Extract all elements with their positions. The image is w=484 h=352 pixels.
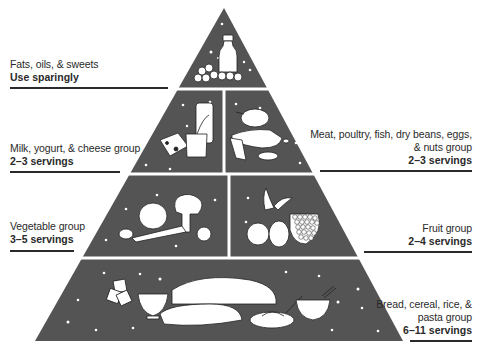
label-milk: Milk, yogurt, & cheese group 2–3 serving… xyxy=(10,142,140,168)
tier-servings: 2–4 servings xyxy=(408,235,472,248)
label-bread: Bread, cereal, rice, & pasta group 6–11 … xyxy=(376,298,472,337)
label-vegetable: Vegetable group 3–5 servings xyxy=(10,220,85,246)
tier-name: Fruit group xyxy=(408,222,472,235)
tier-name-line2: pasta group xyxy=(376,311,472,324)
rule-fruit xyxy=(364,251,472,253)
tier-name: Vegetable group xyxy=(10,220,85,233)
tier-name-line2: & nuts group xyxy=(310,141,472,154)
tier-servings: 3–5 servings xyxy=(10,233,85,246)
tier-servings: Use sparingly xyxy=(10,71,98,84)
tier-name-line1: Bread, cereal, rice, & xyxy=(376,298,472,311)
tier-name-line1: Meat, poultry, fish, dry beans, eggs, xyxy=(310,128,472,141)
tier-servings: 6–11 servings xyxy=(376,324,472,337)
tier-name: Fats, oils, & sweets xyxy=(10,58,98,71)
tier-servings: 2–3 servings xyxy=(10,155,140,168)
rule-fats xyxy=(10,87,168,89)
rule-vegetable xyxy=(10,250,74,252)
rule-bread xyxy=(410,340,472,342)
label-meat: Meat, poultry, fish, dry beans, eggs, & … xyxy=(310,128,472,167)
rule-milk xyxy=(10,171,120,173)
label-fats: Fats, oils, & sweets Use sparingly xyxy=(10,58,98,84)
tier-servings: 2–3 servings xyxy=(310,154,472,167)
label-fruit: Fruit group 2–4 servings xyxy=(408,222,472,248)
tier-name: Milk, yogurt, & cheese group xyxy=(10,142,140,155)
rule-meat xyxy=(320,170,472,172)
